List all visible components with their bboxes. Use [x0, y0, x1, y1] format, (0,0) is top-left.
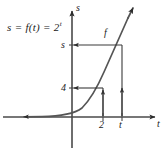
horizontal-axis-label: t — [157, 119, 160, 129]
x-tick-label-2: 2 — [99, 120, 104, 130]
y-tick-label-s: s — [61, 40, 65, 50]
guide-left-to-4 — [74, 88, 103, 116]
y-tick-label-4: 4 — [61, 83, 66, 93]
vertical-axis-label: s — [76, 3, 80, 13]
tick-marks — [69, 45, 122, 121]
guide-left-to-s — [74, 45, 122, 116]
equation-exponent: t — [60, 20, 62, 28]
exponential-function-figure: s = f(t) = 2t s t s 4 2 t f — [0, 0, 167, 156]
mapping-arrow-label: f — [104, 28, 107, 38]
equation-label: s = f(t) = 2t — [7, 22, 62, 33]
x-tick-label-t: t — [119, 120, 122, 130]
equation-text: s = f(t) = 2 — [7, 21, 60, 33]
